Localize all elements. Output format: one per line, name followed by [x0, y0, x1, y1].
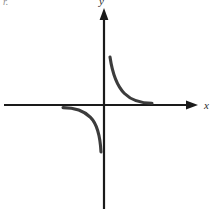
- hyperbola-branch-quadrant-one: [110, 57, 152, 103]
- hyperbola-branch-quadrant-three: [63, 108, 101, 152]
- coordinate-plot-canvas: [0, 0, 216, 209]
- axes-group: [4, 8, 198, 209]
- hyperbola-graph-figure: r. x y: [0, 0, 216, 209]
- y-axis-arrowhead: [100, 8, 109, 20]
- y-axis-label: y: [99, 0, 104, 7]
- x-axis-label: x: [204, 100, 209, 111]
- x-axis-arrowhead: [186, 101, 198, 110]
